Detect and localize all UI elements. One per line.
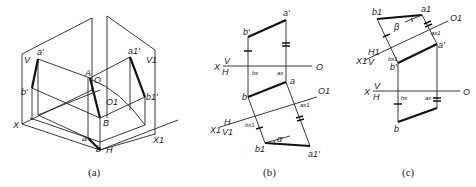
label-bx1: bx1 xyxy=(245,122,255,128)
label-b1-prime: b1' xyxy=(146,92,158,102)
projection-diagram: V a' b' A O O1 a1' V1 b1' X B a b H X1 (… xyxy=(0,0,476,187)
label-V1: V1 xyxy=(222,127,233,137)
label-V1: V xyxy=(368,57,375,67)
label-bx: bx xyxy=(252,70,259,76)
label-a-prime: a' xyxy=(37,47,44,57)
label-ax1: ax1 xyxy=(431,30,441,36)
label-V: V xyxy=(374,81,381,91)
label-B: B xyxy=(103,118,109,128)
panel-a: V a' b' A O O1 a1' V1 b1' X B a b H X1 (… xyxy=(12,16,178,179)
label-ax: ax xyxy=(277,70,284,76)
label-O1: O1 xyxy=(318,86,330,96)
v-plane xyxy=(22,18,92,124)
label-b: b xyxy=(242,92,247,102)
label-X: X xyxy=(12,120,20,130)
label-H: H xyxy=(373,92,380,102)
label-O: O xyxy=(463,87,470,97)
label-b: b xyxy=(394,124,399,134)
label-H: H xyxy=(222,67,229,77)
label-beta: β xyxy=(393,22,399,32)
panel-c: b1 a1 β O1 ax1 a' X1 H1 V bx1 b' X V H O… xyxy=(355,4,470,179)
label-H1: H1 xyxy=(368,47,380,57)
label-H1: H xyxy=(224,117,231,127)
panel-b: a' b' X V H bx ax O a b O1 ax1 X1 H V1 b… xyxy=(209,8,330,179)
label-V: V xyxy=(224,56,231,66)
label-b-prime: b' xyxy=(390,62,397,72)
label-bx: bx xyxy=(401,95,408,101)
label-A: A xyxy=(84,68,91,78)
label-b: b xyxy=(96,144,101,154)
caption-b: (b) xyxy=(263,166,276,179)
label-ax1: ax1 xyxy=(300,102,310,108)
label-alpha: α xyxy=(277,134,283,144)
label-X: X xyxy=(213,62,221,72)
label-v1: V1 xyxy=(146,55,157,65)
label-X1: X1 xyxy=(209,125,221,135)
label-O: O xyxy=(316,62,323,72)
label-O: O xyxy=(94,75,101,85)
label-b1: b1 xyxy=(255,144,265,154)
label-a: a xyxy=(290,76,295,86)
label-a-prime: a' xyxy=(283,8,290,18)
label-a1-prime: a1' xyxy=(128,46,140,56)
caption-a: (a) xyxy=(88,166,101,179)
caption-c: (c) xyxy=(402,166,415,179)
v1-plane xyxy=(107,16,155,135)
label-v: V xyxy=(24,55,31,65)
label-b-prime: b' xyxy=(243,27,250,37)
label-a1-prime: a1' xyxy=(308,149,320,159)
label-X1: X1 xyxy=(152,135,164,145)
label-a1: a1 xyxy=(421,4,431,14)
label-O1: O1 xyxy=(450,13,462,23)
label-O1: O1 xyxy=(106,97,118,107)
label-b-prime: b' xyxy=(21,87,28,97)
label-ax: ax xyxy=(425,95,432,101)
label-a-prime: a' xyxy=(438,40,445,50)
label-X: X xyxy=(363,87,371,97)
label-H: H xyxy=(106,145,113,155)
label-X1: X1 xyxy=(355,56,367,66)
label-b1: b1 xyxy=(372,7,382,17)
label-a: a xyxy=(82,133,87,143)
